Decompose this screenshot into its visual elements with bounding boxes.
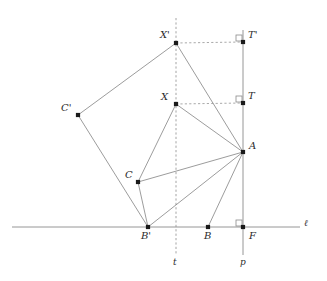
point-label-F: F bbox=[249, 231, 256, 241]
segment-Xprime-Tprime bbox=[176, 42, 243, 43]
segment-X-C bbox=[138, 104, 176, 182]
point-marker-X bbox=[174, 102, 178, 106]
segment-Cprime-Bprime bbox=[78, 115, 148, 227]
segment-C-A bbox=[138, 152, 243, 182]
reference-lines-group bbox=[12, 18, 300, 255]
segment-B-A bbox=[208, 152, 243, 227]
geometry-figure bbox=[0, 0, 327, 281]
point-marker-B bbox=[206, 225, 210, 229]
point-marker-Tprime bbox=[241, 40, 245, 44]
point-label-Cprime: C' bbox=[61, 103, 71, 113]
point-marker-F bbox=[241, 225, 245, 229]
segment-Xprime-A bbox=[176, 43, 243, 152]
segment-C-Bprime bbox=[138, 182, 148, 227]
segment-X-A bbox=[176, 104, 243, 152]
point-marker-A bbox=[241, 150, 245, 154]
point-label-B: B bbox=[204, 231, 211, 241]
point-label-C: C bbox=[125, 170, 133, 180]
point-marker-T bbox=[241, 101, 245, 105]
point-label-Bprime: B' bbox=[141, 231, 151, 241]
right-angle-marks-group bbox=[236, 35, 242, 226]
line-label-ell: ℓ bbox=[304, 219, 308, 228]
point-marker-Xprime bbox=[174, 41, 178, 45]
points-group bbox=[76, 40, 245, 229]
segments-group bbox=[78, 42, 243, 227]
segment-Xprime-Cprime bbox=[78, 43, 176, 115]
line-label-p: p bbox=[240, 258, 246, 267]
line-label-t: t bbox=[173, 258, 177, 267]
segment-X-T bbox=[176, 103, 243, 104]
segment-Bprime-A bbox=[148, 152, 243, 227]
point-marker-Cprime bbox=[76, 113, 80, 117]
point-marker-Bprime bbox=[146, 225, 150, 229]
point-label-A: A bbox=[249, 141, 256, 151]
diagram-canvas: ℓtpX'T'XTAC'CB'BF bbox=[0, 0, 327, 281]
point-label-X: X bbox=[161, 92, 168, 102]
point-marker-C bbox=[136, 180, 140, 184]
point-label-T: T bbox=[248, 91, 255, 101]
point-label-Tprime: T' bbox=[248, 30, 257, 40]
point-label-Xprime: X' bbox=[160, 30, 170, 40]
